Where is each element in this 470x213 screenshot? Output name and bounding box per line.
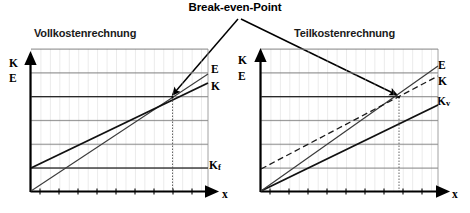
chart-vollkostenrechnung: [31, 49, 217, 195]
diagram-canvas: Break-even-Point Vollkostenrechnung Teil…: [0, 0, 470, 213]
chart-teilkostenrechnung: [261, 49, 448, 195]
left-breakeven-point-marker: [171, 96, 173, 98]
right-breakeven-point-marker: [398, 96, 400, 98]
diagram-vector-layer: [0, 0, 470, 213]
